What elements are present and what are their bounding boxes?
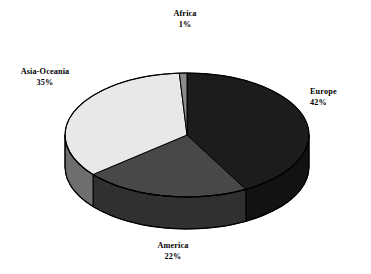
slice-label-europe-percent: 42% (310, 97, 370, 108)
slice-label-europe-name: Europe (310, 86, 370, 97)
slice-label-africa-percent: 1% (145, 19, 225, 30)
pie-geometry (65, 73, 309, 229)
slice-label-america-percent: 22% (130, 251, 216, 262)
slice-label-america-name: America (130, 240, 216, 251)
slice-label-asia-oceania-percent: 35% (2, 77, 88, 88)
pie-chart-figure: Africa 1% Europe 42% Asia-Oceania 35% Am… (0, 0, 371, 274)
slice-label-europe: Europe 42% (310, 86, 370, 108)
slice-label-asia-oceania-name: Asia-Oceania (2, 66, 88, 77)
slice-label-america: America 22% (130, 240, 216, 262)
slice-label-africa: Africa 1% (145, 8, 225, 30)
slice-label-asia-oceania: Asia-Oceania 35% (2, 66, 88, 88)
pie-chart-graphic (0, 0, 371, 274)
slice-label-africa-name: Africa (145, 8, 225, 19)
